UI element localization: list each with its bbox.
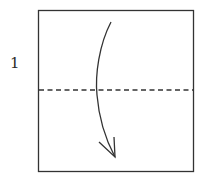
origami-diagram (0, 0, 204, 182)
paper-square (39, 11, 194, 172)
